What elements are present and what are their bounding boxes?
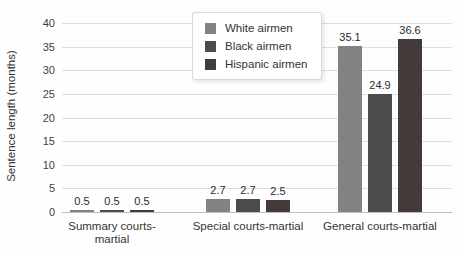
value-label: 36.6	[392, 24, 428, 37]
legend-item-white-airmen: White airmen	[205, 22, 307, 34]
y-tick-label-30: 30	[0, 63, 55, 77]
y-tick-label-35: 35	[0, 40, 55, 54]
bar-black-airmen-group0	[100, 210, 124, 212]
value-label: 2.5	[260, 185, 296, 198]
legend-label-hispanic-airmen: Hispanic airmen	[225, 58, 307, 70]
y-tick-label-20: 20	[0, 111, 55, 125]
bar-hispanic-airmen-group2	[398, 39, 422, 212]
hispanic-airmen-swatch-icon	[205, 59, 216, 70]
legend-item-black-airmen: Black airmen	[205, 40, 307, 52]
bar-hispanic-airmen-group0	[130, 210, 154, 212]
x-axis-line	[62, 212, 452, 213]
gridline-15	[62, 141, 452, 142]
gridline-20	[62, 118, 452, 119]
legend: White airmen Black airmen Hispanic airme…	[192, 12, 322, 80]
value-label: 35.1	[332, 31, 368, 44]
bar-black-airmen-group1	[236, 199, 260, 212]
y-tick-label-5: 5	[0, 181, 55, 195]
y-tick-label-0: 0	[0, 205, 55, 219]
y-tick-label-10: 10	[0, 158, 55, 172]
bar-black-airmen-group2	[368, 94, 392, 212]
legend-item-hispanic-airmen: Hispanic airmen	[205, 58, 307, 70]
black-airmen-swatch-icon	[205, 41, 216, 52]
gridline-10	[62, 165, 452, 166]
bar-hispanic-airmen-group1	[266, 200, 290, 212]
value-label: 0.5	[124, 195, 160, 208]
bar-white-airmen-group1	[206, 199, 230, 212]
x-category-label: Summary courts-martial	[60, 220, 164, 246]
bar-white-airmen-group2	[338, 46, 362, 212]
y-tick-label-25: 25	[0, 87, 55, 101]
value-label: 24.9	[362, 79, 398, 92]
y-tick-label-15: 15	[0, 134, 55, 148]
y-tick-label-40: 40	[0, 16, 55, 30]
x-category-label: General courts-martial	[300, 220, 460, 233]
legend-label-black-airmen: Black airmen	[225, 40, 291, 52]
bar-chart-figure: Sentence length (months) 051015202530354…	[0, 0, 464, 257]
white-airmen-swatch-icon	[205, 23, 216, 34]
bar-white-airmen-group0	[70, 210, 94, 212]
legend-label-white-airmen: White airmen	[225, 22, 293, 34]
gridline-25	[62, 94, 452, 95]
